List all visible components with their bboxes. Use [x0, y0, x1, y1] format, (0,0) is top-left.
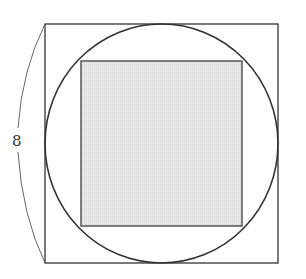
dimension-arc-bottom — [18, 152, 45, 263]
diagram-canvas: 8 — [0, 0, 306, 279]
side-length-label: 8 — [12, 132, 22, 150]
dimension-arc-top — [18, 24, 45, 128]
inner-shaded-square — [81, 61, 242, 226]
